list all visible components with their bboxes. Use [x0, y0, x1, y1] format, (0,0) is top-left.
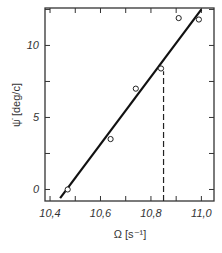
data-point [196, 17, 201, 22]
chart: 10,410,610,811,00510 ψ̇ [deg/c] Ω [s⁻¹] [0, 0, 222, 253]
y-axis-label: ψ̇ [deg/c] [10, 83, 22, 127]
tick-labels: 10,410,610,811,00510 [27, 39, 213, 219]
x-tick-label: 10,8 [140, 207, 162, 219]
x-axis-label: Ω [s⁻¹] [114, 228, 147, 240]
data-point [133, 86, 138, 91]
fit-line [60, 9, 201, 198]
y-tick-label: 0 [33, 183, 40, 195]
data-point [158, 66, 163, 71]
data-point [108, 136, 113, 141]
y-tick-label: 10 [27, 39, 40, 51]
y-tick-label: 5 [33, 111, 40, 123]
x-tick-label: 10,6 [90, 207, 112, 219]
data-point [176, 15, 181, 20]
regression-line [60, 9, 201, 198]
data-point [65, 187, 70, 192]
x-tick-label: 11,0 [191, 207, 212, 219]
x-tick-label: 10,4 [39, 207, 60, 219]
